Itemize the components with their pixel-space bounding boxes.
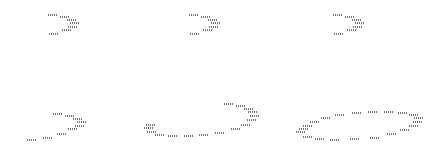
dotted-segment [352,112,361,114]
dotted-segment [57,133,66,135]
dotted-segment [70,22,79,24]
dotted-segment [77,121,86,123]
dotted-segment [330,139,339,141]
dotted-segment [208,19,217,21]
dotted-segment [144,127,153,129]
dotted-segment [68,128,77,130]
dotted-segment [60,16,69,18]
dotted-segment [353,26,362,28]
dotted-segment [73,118,82,120]
dotted-segment [352,19,361,21]
dotted-segment [409,125,418,127]
dotted-segment [345,16,354,18]
dotted-segment [398,112,407,114]
dotted-segment [211,22,220,24]
dotted-segment [75,125,84,127]
dotted-segment [215,132,224,134]
dotted-segment [27,139,36,141]
dotted-segment [199,134,208,136]
dotted-segment [201,16,210,18]
dotted-segment [400,129,409,131]
dotted-segment [413,121,422,123]
dotted-segment [184,135,193,137]
dotted-segment [224,103,233,105]
dotted-segment [43,137,52,139]
dotted-segment [189,14,198,16]
dotted-segment [147,131,156,133]
dotted-segment [48,14,57,16]
dotted-segment [370,137,379,139]
dotted-segment [409,114,418,116]
dotted-segment [299,128,308,130]
dotted-segment [67,19,76,21]
dotted-segment [303,125,312,127]
dotted-segment [168,135,177,137]
dotted-segment [321,117,330,119]
dotted-segment [49,33,58,35]
dotted-segment [68,26,77,28]
dotted-segment [384,111,393,113]
dotted-segment [355,22,364,24]
dotted-segment [335,114,344,116]
dotted-segment [303,136,312,138]
dotted-segment [53,113,62,115]
dotted-segment [310,121,319,123]
dotted-segment [296,131,305,133]
dotted-segment [248,111,257,113]
dotted-segment [414,117,423,119]
dotted-segment [203,29,212,31]
dotted-segment [350,138,359,140]
dotted-segment [231,128,240,130]
dotted-segment [333,14,342,16]
dotted-segment [62,29,71,31]
dotted-segment [387,133,396,135]
dotted-segment [315,138,324,140]
dotted-segment [209,26,218,28]
dotted-segment [155,134,164,136]
dotted-segment [368,111,377,113]
dotted-segment [244,108,253,110]
dotted-segment [65,115,74,117]
dotted-segment [250,115,259,117]
dotted-segment [236,105,245,107]
dotted-segment [241,124,250,126]
dotted-segment [146,124,155,126]
dotted-segment [347,29,356,31]
dotted-segment [334,33,343,35]
dotted-segment [247,119,256,121]
dotted-segment [190,33,199,35]
